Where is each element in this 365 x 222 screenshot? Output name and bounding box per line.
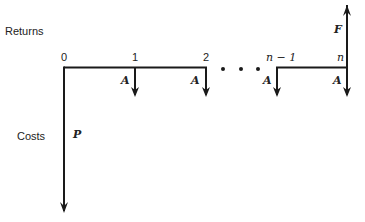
annuity-label-n: A — [332, 74, 342, 87]
costs-label: Costs — [17, 130, 46, 142]
annuity-label-2: A — [190, 74, 200, 87]
annuity-label-1: A — [120, 74, 130, 87]
period-label-0: 0 — [61, 51, 67, 63]
return-label-f: F — [333, 23, 343, 36]
annuity-arrow-n-minus-1 — [273, 67, 281, 97]
period-label-n-minus-1: n − 1 — [266, 51, 296, 64]
cost-label-p: P — [72, 128, 82, 141]
annuity-arrow-2 — [202, 67, 210, 97]
annuity-arrow-1 — [131, 67, 139, 97]
annuity-arrow-n — [343, 5, 351, 97]
period-label-2: 2 — [203, 51, 209, 63]
returns-label: Returns — [5, 25, 44, 37]
cash-flow-diagram: Returns Costs 0 1 2 n − 1 n P A A A A — [0, 0, 365, 222]
cost-arrow-p — [60, 67, 68, 214]
ellipsis-dots — [221, 67, 260, 71]
period-label-1: 1 — [132, 51, 138, 63]
period-label-n: n — [337, 51, 344, 64]
annuity-label-n-minus-1: A — [262, 74, 272, 87]
